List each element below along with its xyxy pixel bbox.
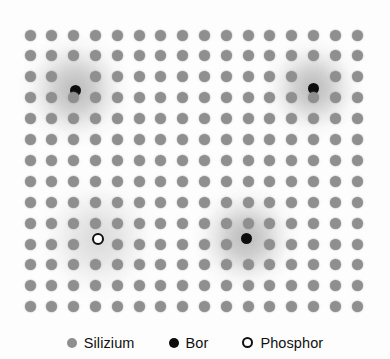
atom-silizium <box>90 30 101 41</box>
atom-silizium <box>243 197 254 208</box>
atom-silizium <box>134 30 145 41</box>
atom-silizium <box>155 197 166 208</box>
atom-silizium <box>68 92 79 103</box>
atom-silizium <box>68 259 79 270</box>
atom-silizium <box>330 30 341 41</box>
atom-silizium <box>68 50 79 61</box>
atom-silizium <box>330 218 341 229</box>
atom-silizium <box>112 113 123 124</box>
atom-silizium <box>286 197 297 208</box>
atom-silizium <box>134 239 145 250</box>
atom-silizium <box>25 176 36 187</box>
atom-silizium <box>308 197 319 208</box>
atom-silizium <box>352 259 363 270</box>
atom-silizium <box>330 197 341 208</box>
atom-silizium <box>90 71 101 82</box>
atom-silizium <box>221 30 232 41</box>
atom-silizium <box>46 218 57 229</box>
atom-silizium <box>112 134 123 145</box>
atom-silizium <box>243 218 254 229</box>
atom-silizium <box>155 50 166 61</box>
atom-silizium <box>46 239 57 250</box>
atom-silizium <box>308 176 319 187</box>
atom-silizium <box>243 113 254 124</box>
atom-silizium <box>68 113 79 124</box>
atom-silizium <box>90 301 101 312</box>
atom-silizium <box>25 239 36 250</box>
atom-silizium <box>352 113 363 124</box>
atom-silizium <box>68 176 79 187</box>
atom-silizium <box>264 259 275 270</box>
atom-silizium <box>352 50 363 61</box>
atom-silizium <box>177 155 188 166</box>
atom-silizium <box>177 50 188 61</box>
atom-silizium <box>308 218 319 229</box>
atom-silizium <box>134 50 145 61</box>
atom-silizium <box>199 92 210 103</box>
atom-silizium <box>352 71 363 82</box>
atom-silizium <box>264 197 275 208</box>
atom-silizium <box>46 50 57 61</box>
atom-silizium <box>177 239 188 250</box>
atom-silizium <box>177 259 188 270</box>
atom-silizium <box>286 280 297 291</box>
atom-silizium <box>352 92 363 103</box>
atom-silizium <box>221 197 232 208</box>
atom-silizium <box>68 301 79 312</box>
atom-silizium <box>68 239 79 250</box>
atom-silizium <box>243 134 254 145</box>
atom-silizium <box>221 92 232 103</box>
atom-silizium <box>221 259 232 270</box>
atom-silizium <box>112 92 123 103</box>
atom-silizium <box>264 113 275 124</box>
atom-silizium <box>264 176 275 187</box>
atom-silizium <box>112 155 123 166</box>
atom-silizium <box>134 71 145 82</box>
atom-phosphor <box>92 233 104 245</box>
atom-silizium <box>90 134 101 145</box>
atom-silizium <box>90 155 101 166</box>
atom-silizium <box>264 301 275 312</box>
atom-silizium <box>90 218 101 229</box>
atom-silizium <box>46 155 57 166</box>
atom-silizium <box>243 259 254 270</box>
atom-silizium <box>134 176 145 187</box>
atom-silizium <box>90 113 101 124</box>
atom-silizium <box>199 50 210 61</box>
atom-silizium <box>46 113 57 124</box>
atom-silizium <box>330 92 341 103</box>
atom-silizium <box>177 176 188 187</box>
atom-silizium <box>308 92 319 103</box>
atom-silizium <box>25 155 36 166</box>
atom-silizium <box>155 134 166 145</box>
atom-silizium <box>177 30 188 41</box>
atom-silizium <box>155 239 166 250</box>
atom-silizium <box>308 280 319 291</box>
atom-silizium <box>90 92 101 103</box>
open-circle-icon <box>242 337 253 348</box>
atom-silizium <box>25 280 36 291</box>
atom-silizium <box>177 218 188 229</box>
atom-silizium <box>177 71 188 82</box>
atom-silizium <box>308 50 319 61</box>
atom-silizium <box>199 280 210 291</box>
atom-silizium <box>155 280 166 291</box>
atom-silizium <box>134 134 145 145</box>
atom-silizium <box>199 155 210 166</box>
atom-silizium <box>243 92 254 103</box>
atom-silizium <box>199 113 210 124</box>
atom-silizium <box>177 134 188 145</box>
atom-silizium <box>112 197 123 208</box>
atom-silizium <box>286 259 297 270</box>
atom-silizium <box>134 155 145 166</box>
atom-silizium <box>134 301 145 312</box>
atom-silizium <box>199 197 210 208</box>
atom-silizium <box>68 155 79 166</box>
atom-silizium <box>155 71 166 82</box>
atom-silizium <box>68 218 79 229</box>
atom-silizium <box>264 280 275 291</box>
atom-silizium <box>68 280 79 291</box>
atom-silizium <box>330 71 341 82</box>
atom-silizium <box>177 92 188 103</box>
atom-silizium <box>46 134 57 145</box>
